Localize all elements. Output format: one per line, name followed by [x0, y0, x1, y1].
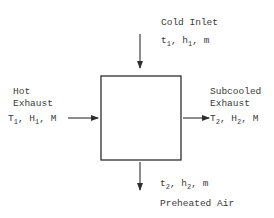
separator: , [39, 113, 50, 124]
separator: , [170, 178, 181, 189]
var-symbol: m [203, 178, 209, 189]
subcooled-exhaust-vars: T2, H2, M [210, 113, 258, 128]
separator: , [191, 178, 202, 189]
cold-inlet-title: Cold Inlet [161, 17, 218, 28]
separator: , [220, 113, 231, 124]
subcooled-exhaust-title-line2: Exhaust [210, 98, 250, 109]
hot-exhaust-title-line1: Hot [13, 86, 30, 97]
separator: , [192, 35, 203, 46]
separator: , [241, 113, 252, 124]
var-symbol: M [253, 113, 259, 124]
var-symbol: m [204, 35, 210, 46]
preheated-air-vars: t2, h2, m [160, 178, 208, 193]
subcooled-exhaust-title-line1: Subcooled [210, 86, 261, 97]
preheated-air-title: Preheated Air [160, 198, 234, 209]
cold-inlet-vars: t1, h1, m [161, 35, 209, 50]
separator: , [18, 113, 29, 124]
var-symbol: M [51, 113, 57, 124]
diagram-canvas [0, 0, 274, 218]
separator: , [171, 35, 182, 46]
hot-exhaust-vars: T1, H1, M [8, 113, 56, 128]
hot-exhaust-title-line2: Exhaust [13, 98, 53, 109]
heat-exchanger-box [101, 76, 181, 160]
